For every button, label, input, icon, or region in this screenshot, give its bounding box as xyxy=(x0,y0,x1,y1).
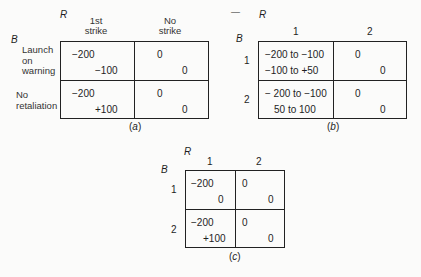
row-player-label: B xyxy=(11,34,18,45)
caption: (a) xyxy=(129,121,141,132)
col-header-1st-strike: 1st strike xyxy=(76,16,116,36)
col-header-no-strike: No strike xyxy=(150,16,190,36)
col-header-2: 2 xyxy=(256,156,262,167)
cell-payoff-b: −200 xyxy=(191,178,214,189)
cell-payoff-b: −200 xyxy=(72,88,95,99)
caption: (c) xyxy=(229,251,241,262)
cell-payoff-b: 0 xyxy=(157,88,163,99)
cell-payoff-r: 0 xyxy=(182,65,188,76)
row-header-line: No xyxy=(16,90,57,101)
grid-divider xyxy=(60,80,209,81)
row-header-1: 1 xyxy=(171,184,177,195)
cell-payoff-b: 0 xyxy=(242,178,248,189)
row-header-line: retaliation xyxy=(16,101,57,112)
row-header-2: 2 xyxy=(244,94,250,105)
caption: (b) xyxy=(327,121,339,132)
grid-divider xyxy=(185,209,285,210)
col-header-1: 1 xyxy=(207,156,213,167)
cell-payoff-r: 0 xyxy=(380,65,386,76)
cell-payoff-r: 0 xyxy=(218,194,224,205)
cell-payoff-b: −200 xyxy=(191,217,214,228)
col-header-line: strike xyxy=(76,26,116,36)
row-header-line: warning xyxy=(22,66,55,77)
dash-mark: — xyxy=(231,7,240,17)
row-player-label: B xyxy=(236,33,243,44)
row-header-no-retaliation: No retaliation xyxy=(16,90,57,111)
cell-payoff-r: −100 to +50 xyxy=(265,65,318,76)
col-header-1: 1 xyxy=(293,26,299,37)
cell-payoff-b: 0 xyxy=(157,49,163,60)
col-player-label: R xyxy=(259,9,266,20)
cell-payoff-r: 0 xyxy=(182,104,188,115)
cell-payoff-r: +100 xyxy=(95,104,118,115)
col-player-label: R xyxy=(60,9,67,20)
cell-payoff-b: − 200 to −100 xyxy=(265,88,327,99)
row-header-line: Launch xyxy=(22,45,55,56)
col-player-label: R xyxy=(184,146,191,157)
row-header-1: 1 xyxy=(244,55,250,66)
cell-payoff-r: 50 to 100 xyxy=(274,104,316,115)
row-header-launch-on-warning: Launch on warning xyxy=(22,45,55,77)
cell-payoff-b: 0 xyxy=(355,49,361,60)
cell-payoff-r: −100 xyxy=(95,65,118,76)
cell-payoff-r: +100 xyxy=(203,233,226,244)
cell-payoff-b: 0 xyxy=(242,217,248,228)
row-header-2: 2 xyxy=(171,224,177,235)
cell-payoff-b: −200 xyxy=(72,49,95,60)
row-player-label: B xyxy=(161,164,168,175)
cell-payoff-r: 0 xyxy=(268,194,274,205)
cell-payoff-r: 0 xyxy=(268,233,274,244)
cell-payoff-b: 0 xyxy=(355,88,361,99)
cell-payoff-b: −200 to −100 xyxy=(265,49,324,60)
grid-divider xyxy=(258,80,407,81)
col-header-line: strike xyxy=(150,26,190,36)
cell-payoff-r: 0 xyxy=(380,104,386,115)
col-header-2: 2 xyxy=(367,26,373,37)
